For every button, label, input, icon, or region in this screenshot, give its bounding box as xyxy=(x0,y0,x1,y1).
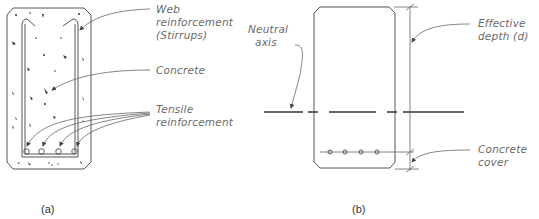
effective-depth-dimension xyxy=(394,4,419,172)
label-cover: cover xyxy=(478,156,509,168)
leader-concrete xyxy=(52,70,150,90)
beam-outline-b xyxy=(314,7,395,168)
panel-a: Web reinforcement (Stirrups) Concrete Te… xyxy=(7,3,234,215)
caption-a: (a) xyxy=(41,203,54,215)
label-stirrups: (Stirrups) xyxy=(156,29,207,41)
beam-cross-section-diagram: Web reinforcement (Stirrups) Concrete Te… xyxy=(0,0,539,219)
label-web: Web xyxy=(156,3,180,15)
tensile-rebars-a xyxy=(24,149,77,154)
label-web-reinforcement: reinforcement xyxy=(156,16,234,28)
label-effective: Effective xyxy=(478,17,526,29)
panel-b: Neutral axis Effective depth (d) Concret… xyxy=(248,4,529,215)
label-tensile: Tensile xyxy=(156,103,193,115)
label-effective-depth: depth (d) xyxy=(478,30,529,42)
leader-effective-depth xyxy=(412,24,470,42)
label-concrete-cover: Concrete xyxy=(478,143,527,155)
leader-concrete-cover xyxy=(412,150,470,162)
label-axis: axis xyxy=(255,36,277,48)
label-neutral: Neutral xyxy=(248,23,288,35)
aggregate-specks xyxy=(12,12,84,166)
leaders-tensile-reinforcement xyxy=(27,112,150,146)
leader-neutral-axis xyxy=(291,45,302,108)
label-concrete: Concrete xyxy=(156,64,205,76)
caption-b: (b) xyxy=(352,203,365,215)
tensile-rebars-b xyxy=(320,150,414,154)
label-tensile-reinforcement: reinforcement xyxy=(156,116,234,128)
